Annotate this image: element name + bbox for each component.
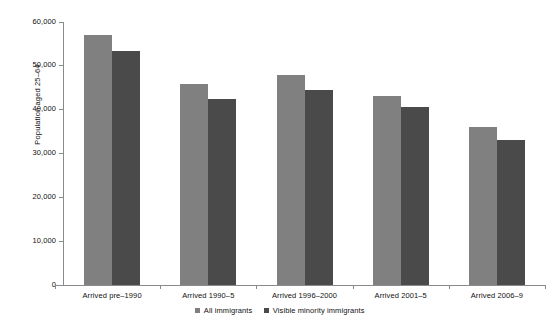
bar-group [180, 22, 236, 285]
x-axis-label: Arrived 2006–9 [449, 291, 545, 300]
x-axis-label: Arrived 2001–5 [353, 291, 449, 300]
plot-area [64, 22, 545, 285]
bar-visible-minority-immigrants[interactable] [305, 90, 333, 285]
bar-chart: Population aged 25–64 010,00020,00030,00… [0, 0, 560, 330]
x-tick-mark [160, 285, 161, 289]
bar-all-immigrants[interactable] [277, 75, 305, 285]
x-tick-mark [256, 285, 257, 289]
legend-item-all-immigrants[interactable]: All immigrants [195, 306, 252, 315]
y-tick-mark [59, 241, 63, 242]
bar-all-immigrants[interactable] [469, 127, 497, 285]
bar-group [84, 22, 140, 285]
bar-visible-minority-immigrants[interactable] [401, 107, 429, 285]
x-axis-line [55, 285, 545, 286]
bar-all-immigrants[interactable] [84, 35, 112, 285]
bar-group [373, 22, 429, 285]
x-tick-mark [449, 285, 450, 289]
y-tick-mark [59, 153, 63, 154]
y-tick-label: 60,000 [32, 17, 56, 26]
y-tick-label: 20,000 [32, 192, 56, 201]
legend-item-visible-minority-immigrants[interactable]: Visible minority immigrants [264, 306, 364, 315]
bar-group [469, 22, 525, 285]
x-axis-label: Arrived 1990–5 [160, 291, 256, 300]
legend-swatch-icon [264, 308, 269, 313]
legend-swatch-icon [195, 308, 200, 313]
legend-label: All immigrants [204, 306, 253, 315]
bar-all-immigrants[interactable] [180, 84, 208, 285]
x-tick-mark [545, 285, 546, 289]
bar-group [277, 22, 333, 285]
x-axis-label: Arrived pre–1990 [64, 291, 160, 300]
x-tick-mark [55, 285, 56, 289]
y-tick-mark [59, 197, 63, 198]
bar-all-immigrants[interactable] [373, 96, 401, 285]
y-tick-label: 10,000 [32, 236, 56, 245]
y-tick-label: 30,000 [32, 148, 56, 157]
legend-label: Visible minority immigrants [273, 306, 365, 315]
chart-legend: All immigrantsVisible minority immigrant… [0, 306, 560, 315]
y-tick-label: 40,000 [32, 104, 56, 113]
x-axis-label: Arrived 1996–2000 [256, 291, 352, 300]
bar-visible-minority-immigrants[interactable] [208, 99, 236, 285]
y-tick-mark [59, 22, 63, 23]
bar-visible-minority-immigrants[interactable] [112, 51, 140, 285]
y-tick-label: 50,000 [32, 60, 56, 69]
y-tick-mark [59, 65, 63, 66]
y-tick-mark [59, 109, 63, 110]
x-tick-mark [353, 285, 354, 289]
y-tick-mark [59, 285, 63, 286]
bar-visible-minority-immigrants[interactable] [497, 140, 525, 285]
